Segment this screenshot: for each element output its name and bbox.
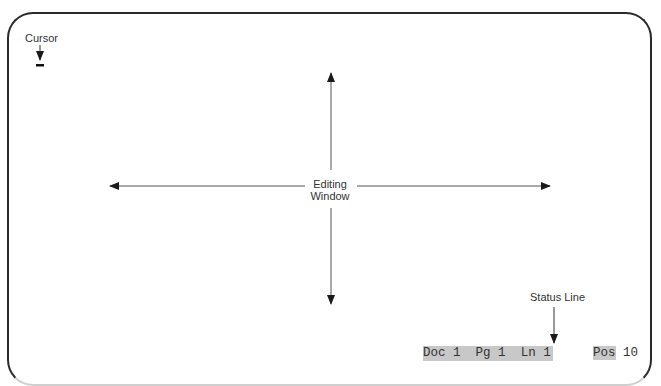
status-bar-position-info: Doc 1 Pg 1 Ln 1 xyxy=(423,346,553,361)
status-page-label: Pg xyxy=(476,346,491,360)
status-bar-pos: Pos 10 xyxy=(593,346,638,361)
editing-window-label-line1: Editing xyxy=(300,178,360,190)
cursor-icon xyxy=(36,64,44,67)
editing-window-label: Editing Window xyxy=(300,178,360,202)
status-line-label-text: Ln xyxy=(521,346,536,360)
status-page-value: 1 xyxy=(498,346,506,360)
status-doc-value: 1 xyxy=(453,346,461,360)
status-pos-label: Pos xyxy=(593,346,616,360)
status-line-label: Status Line xyxy=(530,291,585,303)
editing-window-label-line2: Window xyxy=(300,190,360,202)
status-doc-label: Doc xyxy=(423,346,446,360)
status-pos-value: 10 xyxy=(623,346,638,360)
status-line-value: 1 xyxy=(543,346,551,360)
